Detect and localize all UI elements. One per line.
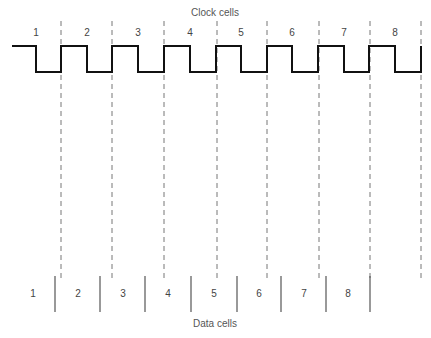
data-cell-number: 5 [211, 288, 217, 299]
data-cell-number: 4 [165, 288, 171, 299]
data-cell-number: 2 [75, 288, 81, 299]
clock-cells-title: Clock cells [191, 7, 239, 18]
clock-cell-number: 2 [84, 27, 90, 38]
clock-cell-number: 6 [289, 27, 295, 38]
data-cell-number: 7 [301, 288, 307, 299]
clock-cell-number: 5 [238, 27, 244, 38]
clock-cell-number: 1 [33, 27, 39, 38]
data-cell-number: 3 [120, 288, 126, 299]
data-cell-number: 6 [256, 288, 262, 299]
clock-cell-number: 8 [392, 27, 398, 38]
clock-waveform [12, 46, 421, 72]
data-cells-title: Data cells [193, 318, 237, 329]
data-cell-number: 8 [345, 288, 351, 299]
clock-cell-number: 4 [187, 27, 193, 38]
data-cell-number: 1 [30, 288, 36, 299]
clock-cell-number: 3 [135, 27, 141, 38]
clock-cell-number: 7 [341, 27, 347, 38]
